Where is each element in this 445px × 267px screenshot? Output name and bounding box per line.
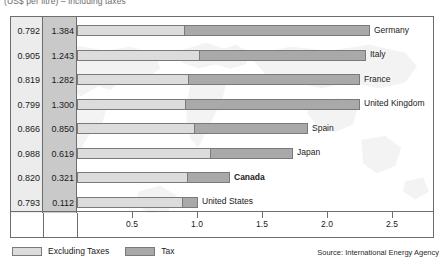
bar-germany[interactable] — [77, 25, 370, 36]
bar-segment-excluding — [78, 149, 210, 158]
bar-rows: 0.792 1.384 Germany 0.905 1.243 Italy 0.… — [11, 17, 433, 213]
axis-tick-label: 2.5 — [386, 219, 398, 229]
chart-frame: 0.792 1.384 Germany 0.905 1.243 Italy 0.… — [10, 16, 434, 238]
axis-tick — [392, 212, 393, 218]
bar-segment-tax — [185, 100, 359, 109]
bar-united-states[interactable] — [77, 197, 198, 208]
bar-segment-tax — [184, 26, 369, 35]
bar-canada[interactable] — [77, 172, 230, 183]
axis-tick — [132, 212, 133, 218]
bar-segment-tax — [187, 173, 229, 182]
cell-tax: 0.321 — [43, 166, 77, 191]
cell-excluding: 0.905 — [11, 44, 43, 69]
axis-tick — [327, 212, 328, 218]
cell-tax: 1.300 — [43, 93, 77, 118]
bar-spain[interactable] — [77, 123, 308, 134]
bar-label: Japan — [297, 147, 320, 157]
axis-tick — [197, 212, 198, 218]
bar-label: United States — [202, 196, 253, 206]
bar-label: France — [364, 74, 390, 84]
bar-segment-excluding — [78, 100, 185, 109]
axis-tick-label: 2.0 — [321, 219, 333, 229]
bar-segment-excluding — [78, 198, 182, 207]
table-row[interactable]: 0.988 0.619 Japan — [11, 142, 433, 167]
axis-tick-label: 0.5 — [126, 219, 138, 229]
cell-tax: 0.619 — [43, 142, 77, 167]
cell-tax: 1.282 — [43, 68, 77, 93]
bar-segment-tax — [182, 198, 197, 207]
bar-label: Italy — [370, 49, 386, 59]
bar-segment-excluding — [78, 173, 187, 182]
source-note: Source: International Energy Agency — [317, 248, 439, 257]
table-row[interactable]: 0.792 1.384 Germany — [11, 19, 433, 44]
table-row[interactable]: 0.819 1.282 France — [11, 68, 433, 93]
x-axis: 0.5 1.0 1.5 2.0 2.5 — [11, 211, 433, 237]
legend: Excluding Taxes Tax — [12, 246, 185, 256]
axis-tick-label: 1.0 — [191, 219, 203, 229]
cell-tax: 1.384 — [43, 19, 77, 44]
bar-label: United Kingdom — [364, 98, 424, 108]
cell-excluding: 0.866 — [11, 117, 43, 142]
cell-tax: 1.243 — [43, 44, 77, 69]
cell-tax: 0.850 — [43, 117, 77, 142]
bar-segment-excluding — [78, 75, 188, 84]
cell-excluding: 0.792 — [11, 19, 43, 44]
bar-segment-excluding — [78, 26, 184, 35]
cell-excluding: 0.819 — [11, 68, 43, 93]
cell-excluding: 0.799 — [11, 93, 43, 118]
table-row[interactable]: 0.905 1.243 Italy — [11, 44, 433, 69]
bar-segment-excluding — [78, 124, 194, 133]
bar-japan[interactable] — [77, 148, 293, 159]
bar-segment-tax — [188, 75, 359, 84]
bar-label: Germany — [374, 25, 409, 35]
page-title: (US$ per litre) – including taxes — [4, 0, 126, 6]
legend-swatch-excluding-taxes — [12, 247, 42, 256]
table-row[interactable]: 0.799 1.300 United Kingdom — [11, 93, 433, 118]
legend-swatch-tax — [125, 247, 155, 256]
bar-united-kingdom[interactable] — [77, 99, 360, 110]
bar-segment-tax — [210, 149, 292, 158]
bar-italy[interactable] — [77, 50, 366, 61]
cell-excluding: 0.988 — [11, 142, 43, 167]
bar-segment-tax — [194, 124, 307, 133]
cell-excluding: 0.820 — [11, 166, 43, 191]
table-row[interactable]: 0.820 0.321 Canada — [11, 166, 433, 191]
axis-tick-label: 1.5 — [256, 219, 268, 229]
bar-label: Canada — [234, 172, 265, 182]
bar-france[interactable] — [77, 74, 360, 85]
bar-segment-excluding — [78, 51, 199, 60]
bar-segment-tax — [199, 51, 365, 60]
legend-label-excluding-taxes: Excluding Taxes — [48, 246, 109, 256]
axis-tick — [262, 212, 263, 218]
table-row[interactable]: 0.866 0.850 Spain — [11, 117, 433, 142]
legend-label-tax: Tax — [161, 246, 174, 256]
bar-label: Spain — [312, 123, 334, 133]
